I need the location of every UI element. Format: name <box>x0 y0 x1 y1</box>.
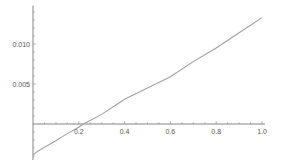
x-tick-label: 0.6 <box>166 128 176 135</box>
x-tick-label: 0.4 <box>120 128 130 135</box>
axes <box>33 6 265 160</box>
x-tick-label: 0.8 <box>211 128 221 135</box>
data-line <box>33 18 262 156</box>
y-tick-label: 0.010 <box>12 41 30 48</box>
ticks <box>33 12 262 156</box>
tick-labels: 0.20.40.60.81.00.0050.010 <box>12 41 267 136</box>
y-tick-label: 0.005 <box>12 81 30 88</box>
line-chart: 0.20.40.60.81.00.0050.010 <box>0 0 282 167</box>
x-tick-label: 1.0 <box>257 128 267 135</box>
